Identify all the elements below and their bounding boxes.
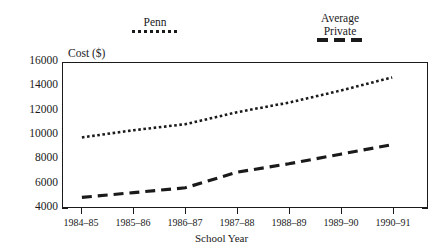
legend-swatch-dashed-icon	[317, 38, 363, 42]
x-tick-label: 1988–89	[272, 217, 307, 228]
y-tick-label: 4000	[35, 200, 58, 212]
y-tick-label: 6000	[35, 176, 58, 188]
plot-area	[62, 62, 428, 208]
legend-entry-penn: Penn	[120, 16, 190, 33]
x-tick-label: 1990–91	[376, 217, 411, 228]
x-tick-label: 1984–85	[64, 217, 99, 228]
x-tick	[393, 208, 394, 214]
y-axis-title: Cost ($)	[68, 47, 105, 59]
x-tick	[133, 208, 134, 214]
y-tick-label: 16000	[29, 54, 58, 66]
y-tick-label: 10000	[29, 127, 58, 139]
legend-label-average-private: Average Private	[295, 12, 385, 37]
x-tick-label: 1985–86	[116, 217, 151, 228]
x-tick-label: 1987–88	[220, 217, 255, 228]
legend-label-penn: Penn	[120, 16, 190, 29]
y-tick-label: 12000	[29, 103, 58, 115]
x-tick	[289, 208, 290, 214]
x-tick	[81, 208, 82, 214]
x-tick	[237, 208, 238, 214]
x-tick-label: 1986–87	[168, 217, 203, 228]
y-tick-label: 8000	[35, 151, 58, 163]
x-tick	[341, 208, 342, 214]
series-line-average-private	[82, 145, 392, 198]
legend-swatch-dotted-icon	[132, 30, 178, 33]
y-tick-label: 14000	[29, 78, 58, 90]
series-line-penn	[82, 77, 392, 137]
legend-entry-average-private: Average Private	[295, 12, 385, 42]
x-tick-label: 1989–90	[324, 217, 359, 228]
plot-svg	[63, 63, 427, 207]
x-tick	[185, 208, 186, 214]
x-axis-title: School Year	[0, 232, 443, 244]
cost-line-chart: Penn Average Private Cost ($) 1600014000…	[0, 0, 443, 250]
